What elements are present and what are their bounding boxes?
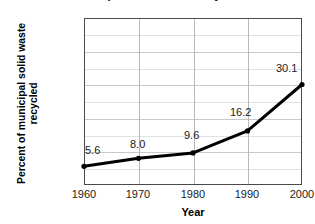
data-point-1990 <box>245 128 250 133</box>
chart-figure: Municipal Solid Waste Recycled Percent o… <box>0 0 315 224</box>
data-point-1980 <box>190 150 195 155</box>
data-point-1960 <box>81 164 86 169</box>
data-label-2000: 30.1 <box>276 62 297 74</box>
data-label-1960: 5.6 <box>85 144 100 156</box>
data-point-1970 <box>136 156 141 161</box>
data-label-1980: 9.6 <box>184 129 199 141</box>
data-point-2000 <box>299 82 304 87</box>
data-label-1970: 8.0 <box>130 138 145 150</box>
data-label-1990: 16.2 <box>230 106 251 118</box>
data-series-line <box>0 0 315 224</box>
x-axis-title: Year <box>84 206 302 218</box>
